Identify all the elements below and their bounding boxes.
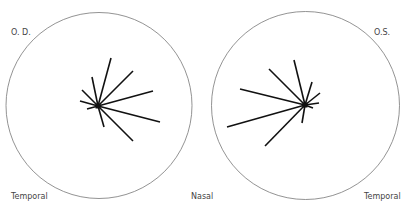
ray-line bbox=[269, 69, 305, 105]
ray-line bbox=[98, 106, 160, 122]
center-point bbox=[303, 103, 308, 108]
temporal-right-label: Temporal bbox=[364, 193, 401, 201]
diagram-canvas bbox=[0, 0, 406, 208]
od-label: O. D. bbox=[11, 29, 31, 37]
ray-line bbox=[294, 60, 305, 105]
os-label: O.S. bbox=[374, 29, 390, 37]
temporal-left-label: Temporal bbox=[11, 193, 48, 201]
nasal-label: Nasal bbox=[191, 193, 213, 201]
od-diagram bbox=[6, 13, 192, 199]
center-point bbox=[96, 104, 101, 109]
ray-line bbox=[240, 89, 305, 105]
os-diagram bbox=[212, 12, 400, 200]
